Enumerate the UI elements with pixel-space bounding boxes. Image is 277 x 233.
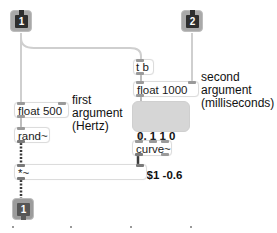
trigger-object[interactable]: t b — [133, 59, 154, 75]
rand-object[interactable]: rand~ — [14, 127, 50, 143]
right-inlet-port[interactable] — [136, 164, 144, 167]
signal-outlet-port[interactable] — [135, 153, 143, 156]
message-box[interactable]: 0, 1 1 0 0 $1 -0.6 — [132, 101, 190, 132]
signal-outlet-port[interactable] — [17, 177, 25, 180]
left-inlet-port[interactable] — [17, 164, 25, 167]
cutoff-text-fragments — [10, 226, 250, 229]
float-time-object-label: float 1000 — [137, 84, 188, 96]
inlet-port[interactable] — [136, 59, 144, 62]
outlet-port[interactable] — [17, 115, 25, 118]
outlet-port[interactable] — [136, 94, 144, 97]
inlet-port[interactable] — [17, 127, 25, 130]
curve-object[interactable]: curve~ — [132, 140, 172, 156]
inlet-1[interactable]: 1 — [10, 10, 32, 32]
left-inlet-port[interactable] — [136, 81, 144, 84]
multiply-object[interactable]: *~ — [14, 164, 147, 180]
outlet-port[interactable] — [161, 153, 169, 156]
inlet-port-2[interactable] — [149, 140, 157, 143]
right-inlet-port[interactable] — [58, 102, 66, 105]
float-freq-object[interactable]: float 500 — [14, 102, 69, 118]
outlet-tab — [21, 215, 26, 220]
inlet-port-3[interactable] — [161, 140, 169, 143]
patcher-canvas[interactable]: 1 2 t b float 1000 second argument (mill… — [0, 0, 277, 233]
inlet-2[interactable]: 2 — [181, 10, 203, 32]
signal-outlet-port[interactable] — [17, 140, 25, 143]
right-inlet-port[interactable] — [188, 81, 196, 84]
float-time-object[interactable]: float 1000 — [133, 81, 199, 97]
comment-first-argument: first argument (Hertz) — [72, 94, 123, 133]
inlet-1-number: 1 — [15, 15, 28, 28]
comment-second-argument: second argument (milliseconds) — [201, 71, 274, 110]
outlet-1[interactable]: 1 — [12, 198, 34, 220]
inlet-port-1[interactable] — [135, 140, 143, 143]
left-inlet-port[interactable] — [17, 102, 25, 105]
cord-inlet1-trigger — [21, 38, 141, 59]
outlet-port[interactable] — [136, 72, 144, 75]
inlet-2-number: 2 — [186, 15, 199, 28]
